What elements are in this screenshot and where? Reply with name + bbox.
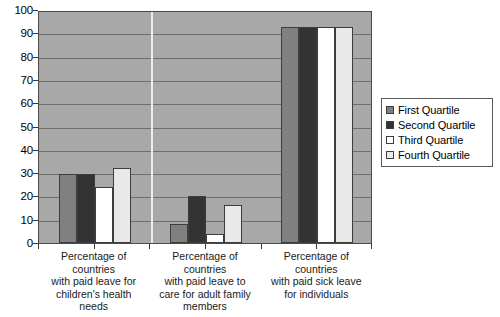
legend-swatch-icon bbox=[386, 121, 394, 129]
legend-swatch-icon bbox=[386, 136, 394, 144]
bar bbox=[206, 234, 224, 243]
x-axis-category-labels: Percentage ofcountrieswith paid leave fo… bbox=[38, 250, 372, 316]
legend-item-label: First Quartile bbox=[398, 104, 460, 116]
legend-item: First Quartile bbox=[386, 102, 488, 117]
x-axis-tick-mark bbox=[371, 244, 372, 249]
bar bbox=[317, 27, 335, 243]
category-label-line: children's health bbox=[38, 288, 149, 301]
category-label-line: with paid leave for bbox=[38, 275, 149, 288]
bar bbox=[59, 174, 77, 243]
bar bbox=[224, 205, 242, 243]
legend: First QuartileSecond QuartileThird Quart… bbox=[381, 98, 493, 167]
bar bbox=[77, 174, 95, 243]
plot-area bbox=[38, 11, 372, 244]
legend-item-label: Third Quartile bbox=[398, 134, 463, 146]
category-label-line: with paid leave to bbox=[149, 275, 260, 288]
x-axis-tick-marks bbox=[38, 244, 372, 249]
category-label-line: members bbox=[149, 300, 260, 313]
category-label-line: countries bbox=[149, 263, 260, 276]
category-label-line: with paid sick leave bbox=[261, 275, 372, 288]
x-axis-tick-mark bbox=[261, 244, 262, 249]
category-label-line: Percentage of bbox=[149, 250, 260, 263]
category-label-line: Percentage of bbox=[261, 250, 372, 263]
legend-item: Second Quartile bbox=[386, 117, 488, 132]
x-axis-tick-mark bbox=[205, 244, 206, 249]
y-axis-tick-marks bbox=[0, 11, 38, 244]
x-axis-tick-mark bbox=[316, 244, 317, 249]
bar bbox=[170, 224, 188, 243]
category-label-line: care for adult family bbox=[149, 288, 260, 301]
legend-swatch-icon bbox=[386, 106, 394, 114]
legend-swatch-icon bbox=[386, 151, 394, 159]
bar bbox=[113, 168, 131, 243]
category-label-line: for individuals bbox=[261, 288, 372, 301]
x-axis-tick-mark bbox=[149, 244, 150, 249]
scan-artifact-line bbox=[151, 12, 153, 243]
category-label-line: countries bbox=[261, 263, 372, 276]
bar bbox=[281, 27, 299, 243]
bar bbox=[188, 196, 206, 243]
bar bbox=[299, 27, 317, 243]
x-axis-category-label: Percentage ofcountrieswith paid leave fo… bbox=[38, 250, 149, 313]
bar bbox=[95, 187, 113, 243]
bar-chart: 0102030405060708090100 Percentage ofcoun… bbox=[0, 0, 500, 317]
legend-item-label: Second Quartile bbox=[398, 119, 475, 131]
legend-item-label: Fourth Quartile bbox=[398, 149, 470, 161]
x-axis-tick-mark bbox=[38, 244, 39, 249]
legend-item: Third Quartile bbox=[386, 132, 488, 147]
legend-item: Fourth Quartile bbox=[386, 147, 488, 162]
x-axis-tick-mark bbox=[94, 244, 95, 249]
category-label-line: Percentage of bbox=[38, 250, 149, 263]
category-label-line: needs bbox=[38, 300, 149, 313]
category-label-line: countries bbox=[38, 263, 149, 276]
bars-layer bbox=[39, 12, 371, 243]
x-axis-category-label: Percentage ofcountrieswith paid sick lea… bbox=[261, 250, 372, 300]
x-axis-category-label: Percentage ofcountrieswith paid leave to… bbox=[149, 250, 260, 313]
bar bbox=[335, 27, 353, 243]
